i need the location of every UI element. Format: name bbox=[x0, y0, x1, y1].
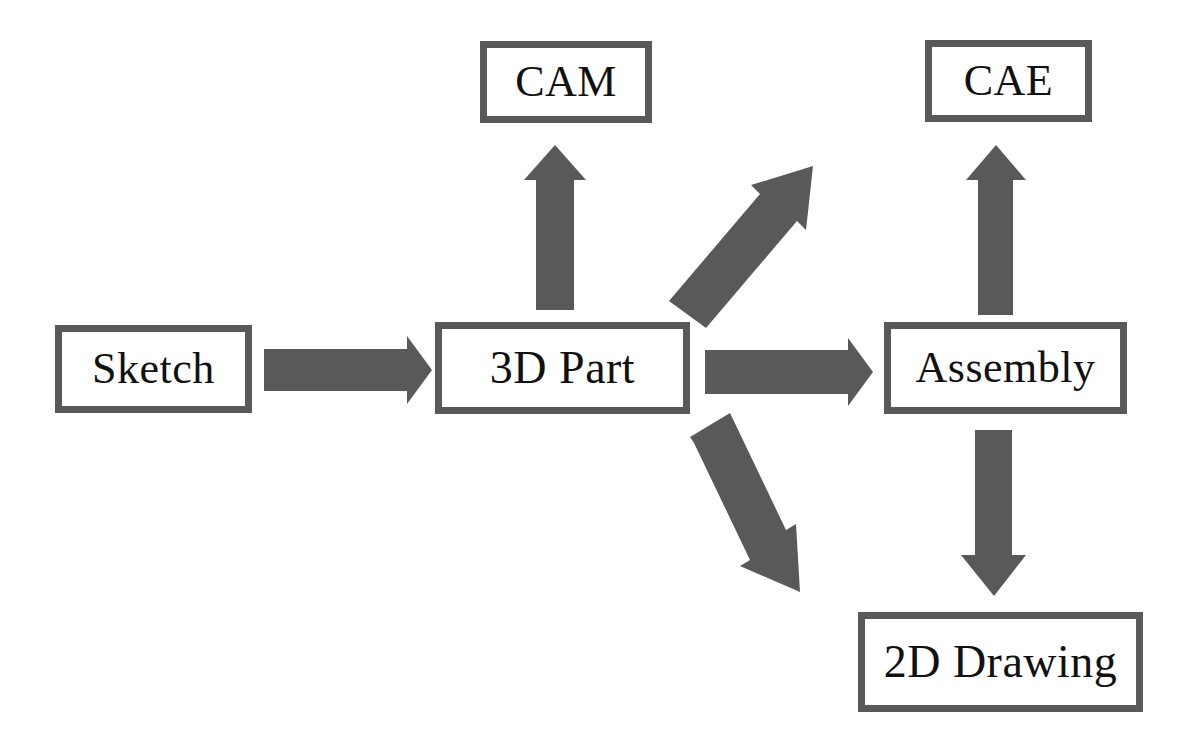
node-assembly[interactable]: Assembly bbox=[884, 322, 1127, 414]
arrow-sketch-to-3dpart bbox=[264, 336, 432, 404]
arrow-3dpart-to-2ddrawing bbox=[690, 413, 800, 592]
node-assembly-label: Assembly bbox=[916, 346, 1096, 390]
node-cam-label: CAM bbox=[515, 60, 617, 104]
arrow-assembly-to-cae bbox=[966, 145, 1026, 315]
arrow-3dpart-to-cam bbox=[524, 145, 586, 310]
node-3d-part-label: 3D Part bbox=[490, 345, 635, 391]
node-cam[interactable]: CAM bbox=[480, 41, 652, 123]
node-2d-drawing-label: 2D Drawing bbox=[884, 639, 1118, 685]
node-2d-drawing[interactable]: 2D Drawing bbox=[858, 612, 1143, 712]
arrow-3dpart-to-assembly bbox=[705, 338, 873, 406]
node-3d-part[interactable]: 3D Part bbox=[435, 322, 690, 414]
diagram-canvas: Sketch CAM 3D Part CAE Assembly 2D Drawi… bbox=[0, 0, 1196, 752]
arrow-3dpart-to-cae bbox=[669, 166, 813, 328]
node-sketch-label: Sketch bbox=[92, 347, 215, 391]
arrow-assembly-to-2ddrawing bbox=[961, 430, 1026, 596]
node-sketch[interactable]: Sketch bbox=[55, 325, 252, 413]
node-cae[interactable]: CAE bbox=[925, 40, 1092, 122]
node-cae-label: CAE bbox=[964, 59, 1054, 103]
